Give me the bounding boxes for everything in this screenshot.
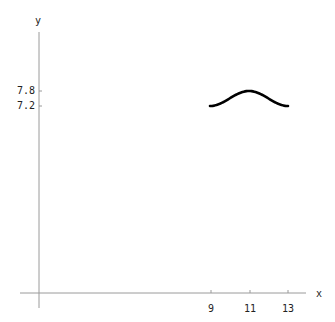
plot: y x 7.8 7.2 9 11 13 <box>0 0 335 322</box>
x-tick-label: 9 <box>208 303 214 314</box>
y-tick-label: 7.2 <box>17 100 35 111</box>
x-tick-label: 11 <box>244 303 256 314</box>
x-tick-label: 13 <box>282 303 294 314</box>
x-axis-label: x <box>316 288 322 299</box>
y-tick-label: 7.8 <box>17 85 35 96</box>
data-curve <box>210 91 288 106</box>
y-axis-label: y <box>35 15 41 26</box>
